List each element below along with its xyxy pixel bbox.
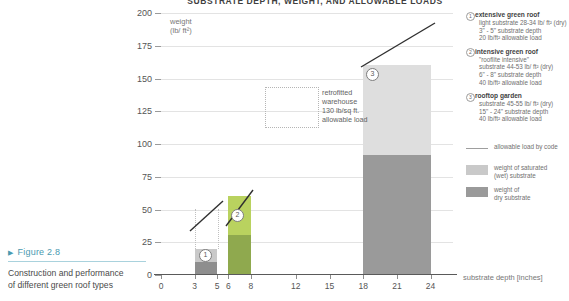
- triangle-right-icon: ▶: [8, 249, 14, 257]
- annotation-line-2: warehouse: [322, 97, 368, 106]
- ytick-mark-150: [155, 79, 161, 80]
- legend-entry-intensive-green-roof[interactable]: 2 intensive green roof "rooflite intensi…: [466, 48, 569, 86]
- figure-caption-body: Construction and performance of differen…: [8, 267, 148, 291]
- legend-number-icon-3: 3: [466, 93, 475, 102]
- x-axis-label: substrate depth [inches]: [463, 273, 543, 282]
- ytick-label-25: 25: [142, 237, 152, 247]
- ytick-mark-75: [155, 177, 161, 178]
- swatch-text-dry-line2: dry substrate: [494, 194, 569, 202]
- swatch-icon-saturated-substrate: [466, 165, 488, 175]
- swatch-text-saturated-line2: (wet) substrate: [494, 172, 569, 180]
- legend-sub-3-1: substrate 45-55 lb/ ft² (dry): [475, 100, 569, 108]
- xtick-mark-8: [251, 275, 252, 279]
- callout-3[interactable]: 3: [366, 68, 379, 81]
- xtick-mark-0: [161, 275, 162, 279]
- xtick-mark-6: [228, 275, 229, 279]
- swatch-text-dry-line1: weight of: [494, 186, 569, 194]
- xtick-label-15: 15: [325, 281, 334, 291]
- legend-sub-2-1: "rooflite intensive": [475, 56, 569, 64]
- swatch-text-allowable-load-line1: allowable load by code: [494, 143, 569, 151]
- annotation-line-4: allowable load: [322, 115, 368, 124]
- bar2-dry-substrate: [228, 235, 251, 275]
- xtick-label-0: 0: [159, 281, 164, 291]
- annotation-line-3: 130 lb/sq ft.: [322, 106, 368, 115]
- ytick-label-175: 175: [137, 41, 152, 51]
- callout-1[interactable]: 1: [199, 249, 212, 262]
- legend-head-3: rooftop garden: [475, 92, 569, 100]
- y-axis-label: weight (lb/ ft²): [170, 17, 192, 35]
- swatch-icon-dry-substrate: [466, 187, 488, 197]
- ytick-mark-100: [155, 144, 161, 145]
- bar1-allowable-load-line: [189, 198, 225, 233]
- ytick-label-100: 100: [137, 139, 152, 149]
- legend-sub-2-4: 40 lb/ft² allowable load: [475, 79, 569, 87]
- ytick-label-125: 125: [137, 106, 152, 116]
- chart-title: SUBSTRATE DEPTH, WEIGHT, AND ALLOWABLE L…: [150, 0, 480, 6]
- ytick-label-50: 50: [142, 205, 152, 215]
- bar-rooftop-garden[interactable]: [363, 65, 431, 275]
- ytick-label-150: 150: [137, 74, 152, 84]
- caption-divider: [8, 261, 146, 262]
- xtick-label-6: 6: [226, 281, 231, 291]
- bar3-dry-substrate: [363, 155, 431, 275]
- xtick-mark-24: [431, 275, 432, 279]
- xtick-label-5: 5: [215, 281, 220, 291]
- ytick-label-200: 200: [137, 8, 152, 18]
- xtick-mark-21: [397, 275, 398, 279]
- legend-sub-2-3: 6" - 8" substrate depth: [475, 71, 569, 79]
- legend-swatches: allowable load by code weight of saturat…: [466, 143, 569, 208]
- figure-number: Figure 2.8: [18, 247, 61, 257]
- xtick-mark-12: [296, 275, 297, 279]
- figure-caption-title: ▶Figure 2.8: [8, 247, 148, 257]
- annotation-line-1: retrofitted: [322, 88, 368, 97]
- legend-sub-1-1: light substrate 28-34 lb/ ft² (dry): [475, 19, 569, 27]
- ytick-mark-175: [155, 46, 161, 47]
- ytick-mark-125: [155, 111, 161, 112]
- legend-entry-extensive-green-roof[interactable]: 1 extensive green roof light substrate 2…: [466, 11, 569, 42]
- figure-caption: ▶Figure 2.8 Construction and performance…: [8, 247, 148, 291]
- xtick-label-18: 18: [358, 281, 367, 291]
- xtick-mark-18: [363, 275, 364, 279]
- swatch-line-icon-allowable-load: [466, 148, 488, 149]
- annotation-box-retrofitted-warehouse: [265, 87, 319, 128]
- annotation-text-retrofitted-warehouse: retrofitted warehouse 130 lb/sq ft. allo…: [322, 88, 368, 124]
- ytick-mark-200: [155, 13, 161, 14]
- legend-sub-2-2: substrate 44-53 lb/ ft² (dry): [475, 63, 569, 71]
- swatch-row-dry-substrate[interactable]: weight of dry substrate: [466, 186, 569, 201]
- swatch-text-saturated-line1: weight of saturated: [494, 164, 569, 172]
- xtick-mark-5: [217, 275, 218, 279]
- bar2-allowable-load-line: [225, 188, 255, 228]
- swatch-row-saturated-substrate[interactable]: weight of saturated (wet) substrate: [466, 164, 569, 179]
- swatch-row-allowable-load[interactable]: allowable load by code: [466, 143, 569, 157]
- legend-roof-types: 1 extensive green roof light substrate 2…: [466, 11, 569, 129]
- callout-2[interactable]: 2: [231, 209, 244, 222]
- legend-sub-3-2: 15" - 24" substrate depth: [475, 108, 569, 116]
- gridline-200: [161, 13, 453, 14]
- y-axis-label-line1: weight: [170, 17, 192, 26]
- legend-sub-3-3: 40 lb/ft² allowable load: [475, 115, 569, 123]
- legend-number-icon-2: 2: [466, 48, 475, 57]
- xtick-label-3: 3: [192, 281, 197, 291]
- xtick-label-24: 24: [426, 281, 435, 291]
- ytick-mark-25: [155, 242, 161, 243]
- ytick-label-75: 75: [142, 172, 152, 182]
- legend-head-2: intensive green roof: [475, 48, 569, 56]
- xtick-mark-3: [195, 275, 196, 279]
- legend-number-icon-1: 1: [466, 12, 475, 21]
- xtick-label-21: 21: [392, 281, 401, 291]
- legend-head-1: extensive green roof: [475, 11, 569, 19]
- figure-caption-line2: of different green roof types: [8, 279, 148, 291]
- plot-area: 200 175 150 125 100 75 50 25 0 1 2 3: [161, 13, 453, 275]
- xtick-mark-15: [330, 275, 331, 279]
- ytick-mark-50: [155, 210, 161, 211]
- figure-caption-line1: Construction and performance: [8, 267, 148, 279]
- legend-sub-1-3: 20 lb/ft² allowable load: [475, 34, 569, 42]
- legend-entry-rooftop-garden[interactable]: 3 rooftop garden substrate 45-55 lb/ ft²…: [466, 92, 569, 123]
- xtick-label-8: 8: [249, 281, 254, 291]
- xtick-label-12: 12: [291, 281, 300, 291]
- x-axis: [154, 274, 457, 275]
- bar3-allowable-load-line: [359, 21, 437, 71]
- legend-sub-1-2: 3" - 5" substrate depth: [475, 27, 569, 35]
- y-axis-label-line2: (lb/ ft²): [170, 26, 192, 35]
